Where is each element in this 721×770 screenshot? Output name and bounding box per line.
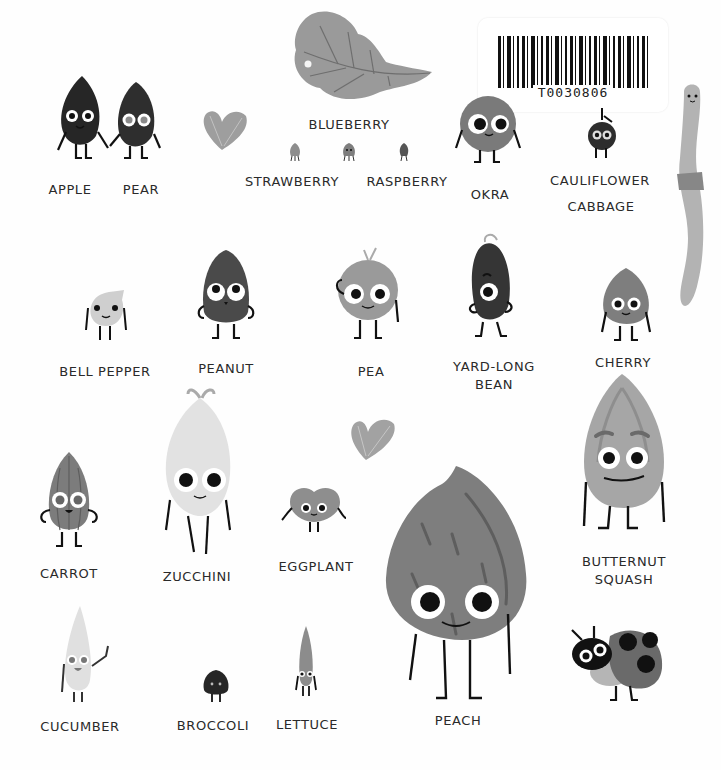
carrot-character xyxy=(36,448,102,552)
worm-icon xyxy=(662,78,712,314)
label-bell-pepper: BELL PEPPER xyxy=(59,363,150,381)
label-eggplant: EGGPLANT xyxy=(278,558,353,576)
label-okra: OKRA xyxy=(471,186,510,204)
label-broccoli: BROCCOLI xyxy=(177,717,249,735)
zucchini-character xyxy=(160,384,238,560)
ladybug-icon xyxy=(566,616,666,706)
label-lettuce: LETTUCE xyxy=(276,716,338,734)
label-pear: PEAR xyxy=(123,181,159,199)
label-yard-long-bean-line1: YARD-LONG xyxy=(453,358,535,376)
raspberry-character xyxy=(398,142,410,162)
cucumber-character xyxy=(56,604,118,708)
eggplant-character xyxy=(282,486,348,534)
barcode-icon xyxy=(498,36,648,88)
peanut-character xyxy=(194,248,258,348)
label-yard-long-bean-line2: BEAN xyxy=(475,376,513,394)
label-strawberry: STRAWBERRY xyxy=(245,173,339,191)
cauliflower-character xyxy=(584,108,620,162)
okra-character xyxy=(452,86,524,166)
lettuce-character xyxy=(292,624,320,702)
leaf-heart-icon-middle xyxy=(348,414,398,462)
broccoli-character xyxy=(200,668,232,704)
label-cucumber: CUCUMBER xyxy=(40,718,119,736)
barcode-number: T0030806 xyxy=(533,85,613,101)
label-peanut: PEANUT xyxy=(198,360,254,378)
leaf-heart-icon xyxy=(200,106,250,152)
pea-character xyxy=(330,246,406,346)
pear-character xyxy=(110,78,170,162)
label-butternut-squash-line1: BUTTERNUT xyxy=(582,553,666,571)
label-apple: APPLE xyxy=(48,181,91,199)
label-blueberry: BLUEBERRY xyxy=(309,116,390,134)
label-butternut-squash-line2: SQUASH xyxy=(595,571,654,589)
blueberry-character xyxy=(341,142,357,162)
yard-long-bean-character xyxy=(463,232,519,342)
label-zucchini: ZUCCHINI xyxy=(163,568,232,586)
book-page: T0030806 APPLE PEAR xyxy=(0,0,721,770)
label-peach: PEACH xyxy=(435,712,482,730)
label-cauliflower: CAULIFLOWER xyxy=(550,172,650,190)
strawberry-character xyxy=(288,142,302,162)
butternut-squash-character xyxy=(576,372,672,540)
leaf-icon xyxy=(290,6,435,106)
bell-pepper-character xyxy=(82,286,132,346)
apple-character xyxy=(52,72,112,162)
cherry-character xyxy=(596,266,656,350)
peach-character xyxy=(382,464,532,704)
label-cherry: CHERRY xyxy=(595,354,651,372)
label-cabbage: CABBAGE xyxy=(568,198,635,216)
label-raspberry: RASPBERRY xyxy=(366,173,447,191)
label-carrot: CARROT xyxy=(40,565,98,583)
label-pea: PEA xyxy=(358,363,385,381)
